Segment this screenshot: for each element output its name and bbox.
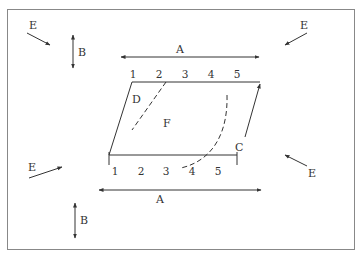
dashed-line-d	[132, 82, 166, 130]
a-arrow-bottom: A	[99, 190, 261, 206]
label-e-bottom-right: E	[308, 167, 316, 180]
e-arrow-bottom-left: E	[28, 161, 62, 178]
dashed-curve	[181, 95, 227, 168]
top-number: 3	[182, 68, 189, 80]
bottom-number: 3	[163, 165, 170, 177]
e-arrow-top-right: E	[285, 19, 308, 45]
bottom-number: 5	[215, 165, 222, 177]
top-number: 4	[208, 68, 215, 80]
label-a-top: A	[175, 43, 185, 56]
b-arrow-bottom: B	[75, 203, 88, 238]
top-number: 2	[156, 68, 163, 80]
bottom-number: 1	[112, 165, 119, 177]
label-e-top-left: E	[29, 19, 37, 32]
label-a-bottom: A	[155, 193, 165, 206]
label-e-bottom-left: E	[28, 161, 36, 174]
bottom-number: 4	[189, 165, 196, 177]
top-number: 5	[234, 68, 241, 80]
bottom-number: 2	[138, 165, 145, 177]
label-b-bottom: B	[80, 214, 88, 227]
a-arrow-top: A	[121, 43, 259, 57]
label-b-top: B	[78, 46, 86, 59]
b-arrow-top: B	[73, 35, 86, 68]
label-d: D	[132, 93, 141, 106]
top-number-scale: 1 2 3 4 5	[130, 68, 241, 80]
label-c: C	[235, 141, 243, 154]
label-f: F	[163, 117, 171, 130]
e-arrow-top-left: E	[27, 19, 50, 45]
bottom-number-scale: 1 2 3 4 5	[112, 165, 222, 177]
e-arrow-bottom-right: E	[285, 155, 316, 180]
diagram-canvas: E E E E B B A A D	[0, 0, 359, 258]
label-e-top-right: E	[300, 19, 308, 32]
top-number: 1	[130, 68, 137, 80]
